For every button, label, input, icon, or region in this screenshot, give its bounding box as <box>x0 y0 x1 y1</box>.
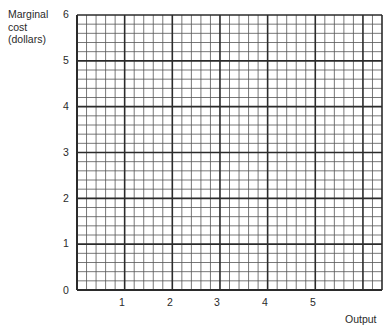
graph-paper-grid <box>0 0 388 333</box>
x-tick-4: 4 <box>259 296 271 308</box>
x-axis-label: Output <box>345 313 377 325</box>
x-tick-1: 1 <box>116 296 128 308</box>
y-tick-1: 1 <box>63 237 73 249</box>
x-tick-2: 2 <box>164 296 176 308</box>
y-tick-6: 6 <box>63 8 73 20</box>
y-tick-0: 0 <box>63 284 73 296</box>
y-tick-3: 3 <box>63 146 73 158</box>
y-tick-2: 2 <box>63 192 73 204</box>
x-tick-5: 5 <box>307 296 319 308</box>
y-tick-4: 4 <box>63 100 73 112</box>
y-tick-5: 5 <box>63 54 73 66</box>
x-tick-3: 3 <box>211 296 223 308</box>
